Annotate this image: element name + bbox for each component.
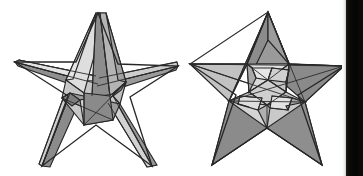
star-figure-canvas: Two five-pointed star polyhedra rendered… — [0, 0, 363, 176]
page-edge-band — [346, 0, 363, 176]
figure-page: Two five-pointed star polyhedra rendered… — [0, 0, 363, 176]
